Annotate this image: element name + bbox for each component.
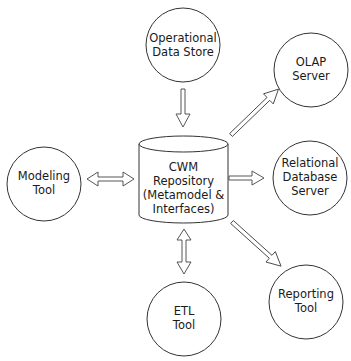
node-label: OLAP — [296, 55, 327, 69]
node-operational-data-store: Operational Data Store — [146, 8, 220, 82]
node-cwm-repository: CWM Repository (Metamodel & Interfaces) — [139, 136, 228, 223]
arrow-repository-to-reporting — [227, 217, 285, 272]
node-label: Tool — [172, 318, 195, 332]
node-modeling-tool: Modeling Tool — [7, 147, 81, 221]
node-label: Operational — [149, 31, 216, 45]
node-relational-database-server: Relational Database Server — [273, 141, 347, 215]
node-label: Tool — [32, 183, 55, 197]
node-label: (Metamodel & — [143, 188, 225, 202]
node-label: Repository — [153, 174, 214, 188]
node-label: Interfaces) — [153, 202, 215, 216]
node-label: Reporting — [278, 287, 334, 301]
arrow-repository-to-relational-db — [229, 171, 264, 185]
arrow-ods-to-repository — [176, 89, 190, 127]
arrow-modeling-repository-bidirectional — [87, 172, 134, 186]
node-label: Tool — [294, 301, 317, 315]
node-label: ETL — [174, 304, 195, 318]
node-label: Data Store — [152, 45, 214, 59]
node-label: Server — [291, 184, 329, 198]
node-label: CWM — [169, 160, 198, 174]
cwm-architecture-diagram: Operational Data Store OLAP Server Relat… — [0, 0, 351, 361]
node-label: Server — [292, 69, 330, 83]
arrow-repository-etl-bidirectional — [177, 229, 191, 274]
node-label: Modeling — [18, 169, 70, 183]
node-reporting-tool: Reporting Tool — [269, 265, 343, 339]
node-etl-tool: ETL Tool — [147, 282, 221, 356]
node-olap-server: OLAP Server — [274, 33, 348, 107]
arrow-repository-to-olap — [226, 84, 283, 140]
node-label: Database — [283, 170, 338, 184]
node-label: Relational — [281, 156, 338, 170]
